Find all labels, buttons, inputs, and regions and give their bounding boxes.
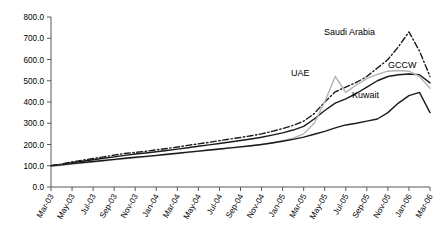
y-tick-label: 800.0 (24, 13, 45, 22)
y-tick-label: 100.0 (24, 162, 45, 171)
y-tick-label: 200.0 (24, 141, 45, 150)
series-label-kuwait: Kuwait (352, 90, 380, 100)
x-tick-label: Mar-05 (288, 192, 309, 219)
x-tick-label: Mar-06 (414, 192, 435, 219)
x-tick-label: Mar-04 (161, 192, 182, 219)
series-line-kuwait (51, 92, 430, 165)
x-tick-label: Jan-04 (141, 192, 162, 219)
chart-container: 0.0100.0200.0300.0400.0500.0600.0700.080… (0, 0, 437, 243)
x-tick-label: May-03 (55, 192, 77, 221)
line-chart: 0.0100.0200.0300.0400.0500.0600.0700.080… (0, 0, 437, 243)
y-tick-label: 500.0 (24, 77, 45, 86)
x-tick-label: Jan-05 (267, 192, 288, 219)
series-label-saudi-arabia: Saudi Arabia (324, 27, 375, 37)
x-tick-label: Mar-03 (35, 192, 56, 219)
x-tick-label: May-04 (182, 192, 204, 221)
x-tick-label: Sep-05 (351, 192, 372, 220)
x-tick-label: Nov-04 (245, 192, 266, 220)
y-tick-label: 0.0 (33, 183, 45, 192)
y-tick-label: 700.0 (24, 34, 45, 43)
y-tick-label: 600.0 (24, 56, 45, 65)
series-label-uae: UAE (291, 68, 310, 78)
x-tick-label: Jan-06 (393, 192, 414, 219)
x-tick-label: Sep-03 (98, 192, 119, 220)
series-label-gccw: GCCW (388, 60, 417, 70)
x-tick-label: Nov-05 (372, 192, 393, 220)
y-tick-label: 400.0 (24, 98, 45, 107)
x-tick-label: May-05 (308, 192, 330, 221)
series-line-uae (51, 71, 430, 167)
x-tick-label: Sep-04 (224, 192, 245, 220)
y-tick-label: 300.0 (24, 119, 45, 128)
x-tick-label: Jul-05 (332, 192, 351, 216)
x-tick-label: Jul-03 (79, 192, 98, 216)
x-tick-label: Jul-04 (205, 192, 224, 216)
x-tick-label: Nov-03 (119, 192, 140, 220)
